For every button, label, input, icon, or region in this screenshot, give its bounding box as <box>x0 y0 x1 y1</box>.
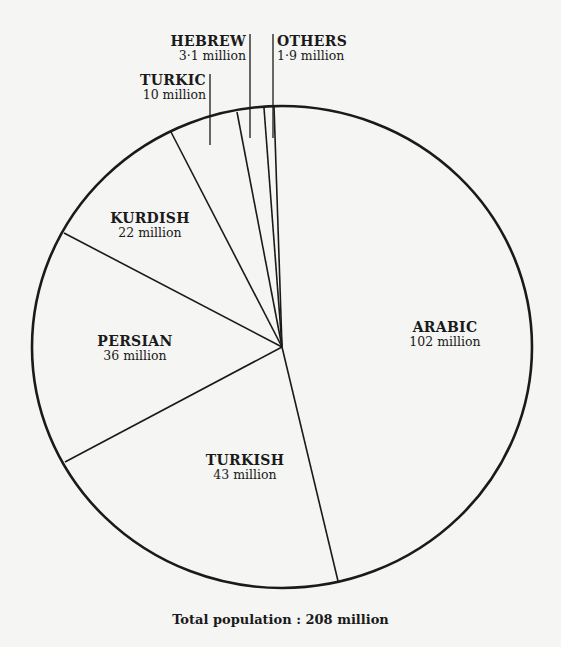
boundary-turkish-persian <box>65 347 282 462</box>
label-persian-name: PERSIAN <box>85 333 185 349</box>
label-kurdish-name: KURDISH <box>100 210 200 226</box>
label-arabic: ARABIC 102 million <box>390 319 500 349</box>
label-persian-value: 36 million <box>85 349 185 363</box>
label-turkic-value: 10 million <box>120 88 206 102</box>
label-turkish: TURKISH 43 million <box>190 452 300 482</box>
label-turkish-value: 43 million <box>190 468 300 482</box>
label-kurdish: KURDISH 22 million <box>100 210 200 240</box>
boundary-hebrew-others <box>264 108 282 347</box>
label-turkic-name: TURKIC <box>120 72 206 88</box>
label-hebrew-name: HEBREW <box>160 33 246 49</box>
label-others: OTHERS 1·9 million <box>277 33 367 63</box>
boundary-persian-kurdish <box>64 233 282 347</box>
total-population-caption: Total population : 208 million <box>0 612 561 627</box>
label-kurdish-value: 22 million <box>100 226 200 240</box>
label-hebrew-value: 3·1 million <box>160 49 246 63</box>
label-persian: PERSIAN 36 million <box>85 333 185 363</box>
label-turkic: TURKIC 10 million <box>120 72 206 102</box>
label-arabic-value: 102 million <box>390 335 500 349</box>
label-others-value: 1·9 million <box>277 49 367 63</box>
label-arabic-name: ARABIC <box>390 319 500 335</box>
label-turkish-name: TURKISH <box>190 452 300 468</box>
label-others-name: OTHERS <box>277 33 367 49</box>
label-hebrew: HEBREW 3·1 million <box>160 33 246 63</box>
